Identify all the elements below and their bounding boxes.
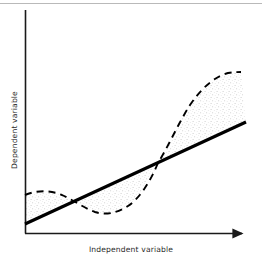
x-axis-label: Independent variable (89, 245, 173, 254)
residual-shaded-regions (25, 72, 246, 224)
upper-residual-lens (158, 72, 246, 163)
linear-fit-line (25, 122, 246, 224)
scatter-plot-figure: Independent variable Dependent variable (0, 0, 262, 264)
y-axis-label: Dependent variable (10, 91, 19, 169)
figure-container: Independent variable Dependent variable (0, 0, 262, 264)
